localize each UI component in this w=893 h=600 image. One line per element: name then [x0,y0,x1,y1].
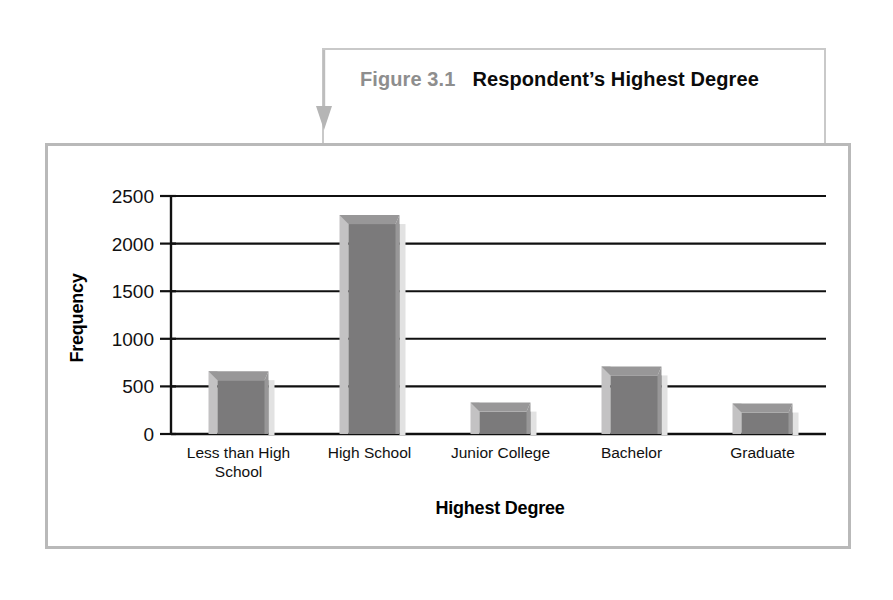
y-tick-label: 1000 [112,329,154,350]
x-tick-label: Less than HighSchool [187,444,290,480]
y-axis-title: Frequency [67,273,87,362]
bar [602,366,668,435]
x-tick-label: Graduate [730,444,795,461]
bar-series [209,215,799,435]
y-tick-label: 0 [143,424,154,445]
figure-number: Figure 3.1 [360,68,455,90]
y-tick-label: 2500 [112,186,154,207]
x-axis-title: Highest Degree [435,498,564,518]
figure-caption-callout [322,48,826,146]
bar-chart: Frequency 05001000150020002500 Less than… [48,146,848,546]
figure-caption-text: Figure 3.1 Respondent’s Highest Degree [360,66,815,92]
figure-title: Respondent’s Highest Degree [472,68,758,90]
x-tick-label: High School [328,444,412,461]
y-tick-label: 1500 [112,281,154,302]
y-tick-label: 500 [122,376,154,397]
bar [471,403,537,435]
chart-canvas: Frequency 05001000150020002500 Less than… [48,146,848,546]
bar [340,215,406,435]
x-tick-label: Bachelor [601,444,662,461]
bar [733,404,799,435]
y-tick-label: 2000 [112,234,154,255]
x-axis: Less than HighSchoolHigh SchoolJunior Co… [187,444,795,480]
bar [209,371,275,435]
arrow-down-icon [315,50,333,136]
x-tick-label: Junior College [451,444,550,461]
figure-frame: Frequency 05001000150020002500 Less than… [45,143,851,549]
